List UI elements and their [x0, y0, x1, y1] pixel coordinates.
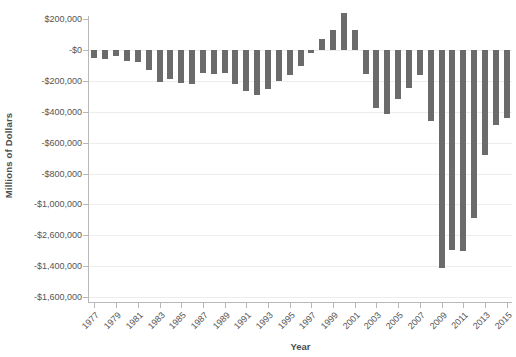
plot-area	[89, 0, 512, 302]
x-axis-tick-mark	[268, 303, 269, 308]
bar	[102, 50, 108, 59]
y-axis-title: Millions of Dollars	[0, 0, 18, 310]
bar	[254, 50, 260, 95]
x-axis-tick-mark	[420, 303, 421, 308]
bar	[449, 50, 455, 250]
bar	[493, 50, 499, 125]
bar	[363, 50, 369, 74]
bar	[471, 50, 477, 218]
bar	[406, 50, 412, 88]
x-axis-tick-mark	[225, 303, 226, 308]
bar	[167, 50, 173, 79]
bar	[439, 50, 445, 268]
y-axis-tick-label: -$200,000	[41, 76, 82, 86]
bar	[265, 50, 271, 89]
y-axis-title-text: Millions of Dollars	[4, 112, 15, 198]
x-axis-tick-mark	[355, 303, 356, 308]
x-axis-tick-mark	[116, 303, 117, 308]
y-axis-tick-label: -$600,000	[41, 138, 82, 148]
bar	[135, 50, 141, 62]
bar	[298, 50, 304, 67]
bar	[91, 50, 97, 58]
bar	[276, 50, 282, 81]
bar	[428, 50, 434, 121]
x-axis-tick-mark	[485, 303, 486, 308]
bar	[460, 50, 466, 251]
bar	[384, 50, 390, 114]
y-axis-tick-label: -$0	[69, 45, 82, 55]
y-axis-tick-label: -$1,600,000	[34, 292, 82, 302]
bar	[232, 50, 238, 84]
bar	[157, 50, 163, 82]
bar	[395, 50, 401, 99]
x-axis-tick-mark	[507, 303, 508, 308]
bar	[330, 30, 336, 49]
x-axis-tick-mark	[290, 303, 291, 308]
bar	[308, 50, 314, 53]
y-axis-tick-label: -$400,000	[41, 107, 82, 117]
x-axis-tick-mark	[181, 303, 182, 308]
bar	[189, 50, 195, 84]
y-axis-tick-label: -$1,000,000	[34, 199, 82, 209]
y-axis-tick-labels: $200,000-$0-$200,000-$400,000-$600,000-$…	[18, 0, 86, 310]
bar	[113, 50, 119, 56]
x-axis-tick-mark	[138, 303, 139, 308]
bar	[200, 50, 206, 73]
bar	[146, 50, 152, 70]
x-axis-tick-mark	[463, 303, 464, 308]
bar	[341, 13, 347, 49]
bar	[211, 50, 217, 74]
bar-chart: Millions of Dollars $200,000-$0-$200,000…	[0, 0, 516, 357]
bar	[319, 39, 325, 50]
x-axis-tick-mark	[442, 303, 443, 308]
y-axis-tick-label: -$1,400,000	[34, 261, 82, 271]
y-axis-tick-label: -$800,000	[41, 169, 82, 179]
x-axis-tick-mark	[398, 303, 399, 308]
x-axis-tick-mark	[160, 303, 161, 308]
bar	[222, 50, 228, 74]
bar	[178, 50, 184, 83]
bar	[243, 50, 249, 92]
x-axis-tick-mark	[246, 303, 247, 308]
x-axis-tick-mark	[333, 303, 334, 308]
y-axis-tick-label: $200,000	[44, 14, 82, 24]
x-axis-tick-mark	[311, 303, 312, 308]
bar	[352, 30, 358, 50]
bar	[504, 50, 510, 118]
y-axis-tick-label: -$2,600,000	[34, 230, 82, 240]
bar	[373, 50, 379, 108]
x-axis-line	[88, 302, 512, 303]
x-axis-tick-mark	[94, 303, 95, 308]
x-axis-tick-mark	[203, 303, 204, 308]
bar	[124, 50, 130, 61]
bar	[417, 50, 423, 75]
x-axis-tick-mark	[376, 303, 377, 308]
bar	[482, 50, 488, 155]
bar	[287, 50, 293, 75]
x-axis-title: Year	[89, 341, 512, 352]
